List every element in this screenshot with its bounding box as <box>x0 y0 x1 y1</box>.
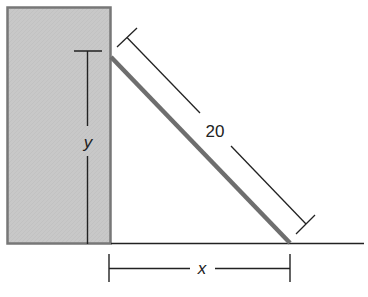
height-label: y <box>83 133 94 152</box>
ladder-length-dimension: 20 <box>117 28 315 234</box>
base-distance-dimension: x <box>109 254 290 282</box>
ladder <box>111 57 290 243</box>
ladder-diagram: 20 y x <box>0 0 368 297</box>
base-distance-label: x <box>197 259 207 278</box>
wall <box>8 8 111 244</box>
ladder-length-label: 20 <box>206 122 225 141</box>
